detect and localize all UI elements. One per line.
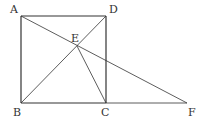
segment-EC	[77, 46, 106, 103]
label-E: E	[71, 32, 79, 45]
label-C: C	[101, 106, 109, 119]
diagram-lines	[21, 16, 187, 103]
geometry-diagram: A D B C F E	[0, 0, 204, 122]
label-B: B	[13, 106, 21, 119]
diagram-labels: A D B C F E	[9, 3, 196, 119]
label-F: F	[188, 106, 196, 119]
segment-BD	[21, 16, 106, 103]
label-D: D	[109, 3, 118, 16]
label-A: A	[9, 3, 19, 16]
segment-AF	[21, 16, 187, 103]
diagram-svg: A D B C F E	[0, 0, 204, 122]
